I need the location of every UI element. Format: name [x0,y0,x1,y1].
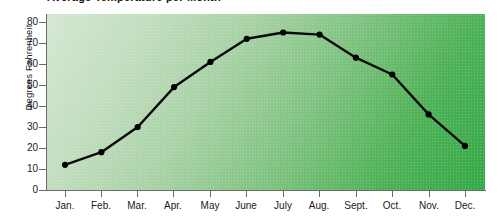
data-point [316,31,322,37]
data-point [98,149,104,155]
temperature-line [65,33,465,165]
chart-screenshot: Average Temperature per Month Degrees Fa… [0,0,500,222]
data-point [389,71,395,77]
data-point [171,84,177,90]
data-point [244,36,250,42]
data-point [62,162,68,168]
data-point [426,111,432,117]
data-series-layer [0,0,500,222]
data-point [280,29,286,35]
data-point [135,124,141,130]
data-point [462,143,468,149]
data-point-markers [62,29,468,168]
data-point [353,55,359,61]
data-point [207,59,213,65]
